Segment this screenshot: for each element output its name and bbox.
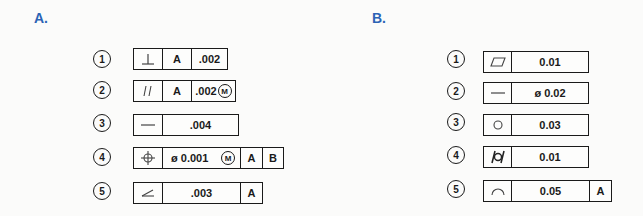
straightness-icon: [490, 87, 506, 99]
flatness-icon: [490, 57, 506, 67]
cylindricity-icon: [490, 150, 506, 164]
symbol-cell: [484, 147, 512, 167]
symbol-cell: [484, 83, 512, 103]
item-number-a5: 5: [93, 182, 111, 200]
symbol-cell: [134, 115, 163, 135]
item-number-b4: 4: [447, 146, 465, 164]
datum-cell-primary: A: [241, 148, 263, 168]
tolerance-cell: .004: [163, 115, 238, 135]
tolerance-cell: 0.05: [512, 181, 590, 201]
feature-control-frame-a2: A .002 M: [133, 80, 236, 102]
tolerance-cell: .002 M: [192, 81, 235, 101]
tolerance-value: 0.02: [544, 87, 565, 99]
item-number-b3: 3: [447, 113, 465, 131]
item-number-b2: 2: [447, 82, 465, 100]
symbol-cell: [134, 81, 163, 101]
symbol-cell: [484, 52, 512, 72]
datum-cell: A: [241, 183, 262, 203]
tolerance-value: .002: [195, 85, 216, 97]
position-icon: [141, 151, 155, 165]
feature-control-frame-b4: 0.01: [483, 146, 589, 168]
item-number-a3: 3: [93, 114, 111, 132]
item-number-a2: 2: [93, 81, 111, 99]
feature-control-frame-b3: 0.03: [483, 114, 589, 136]
symbol-cell: [484, 181, 512, 201]
straightness-icon: [140, 119, 156, 131]
section-b-label: B.: [372, 10, 386, 26]
diameter-symbol: ø: [171, 152, 178, 164]
feature-control-frame-a1: A .002: [133, 48, 228, 70]
parallelism-icon: [141, 85, 155, 97]
tolerance-cell: .003: [163, 183, 241, 203]
feature-control-frame-b5: 0.05 A: [483, 180, 612, 202]
tolerance-cell: 0.03: [512, 115, 588, 135]
item-number-a1: 1: [93, 50, 111, 68]
tolerance-cell: .002: [192, 49, 227, 69]
datum-cell: A: [590, 181, 611, 201]
section-a-label: A.: [34, 10, 48, 26]
tolerance-cell: 0.01: [512, 52, 588, 72]
symbol-cell: [134, 49, 163, 69]
feature-control-frame-b1: 0.01: [483, 51, 589, 73]
feature-control-frame-a4: ø 0.001 M A B: [133, 147, 284, 169]
mmc-modifier-icon: M: [221, 151, 235, 165]
tolerance-cell: ø 0.02: [512, 83, 588, 103]
tolerance-cell: 0.01: [512, 147, 588, 167]
item-number-b5: 5: [447, 180, 465, 198]
symbol-cell: [134, 183, 163, 203]
circularity-icon: [492, 119, 504, 131]
feature-control-frame-a5: .003 A: [133, 182, 263, 204]
symbol-cell: [484, 115, 512, 135]
datum-cell: A: [163, 49, 192, 69]
tolerance-cell: ø 0.001 M: [163, 148, 241, 168]
item-number-b1: 1: [447, 50, 465, 68]
feature-control-frame-a3: .004: [133, 114, 239, 136]
datum-cell-secondary: B: [263, 148, 283, 168]
perpendicularity-icon: [141, 53, 155, 65]
tolerance-value: 0.001: [181, 152, 209, 164]
mmc-modifier-icon: M: [218, 84, 232, 98]
datum-cell: A: [163, 81, 192, 101]
angularity-icon: [140, 187, 156, 199]
feature-control-frame-b2: ø 0.02: [483, 82, 589, 104]
profile-of-line-icon: [490, 186, 506, 196]
diameter-symbol: ø: [534, 87, 541, 99]
item-number-a4: 4: [93, 148, 111, 166]
symbol-cell: [134, 148, 163, 168]
